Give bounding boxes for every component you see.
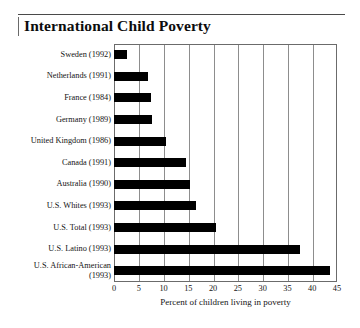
x-tick-label: 10	[154, 284, 174, 293]
bar-row	[114, 260, 337, 282]
bar	[114, 93, 151, 102]
bar	[114, 201, 196, 210]
category-label: Netherlands (1991)	[2, 71, 114, 80]
category-label: U.S. Latino (1993)	[2, 244, 114, 253]
chart-figure: International Child Poverty Percent of c…	[0, 0, 360, 328]
bar	[114, 137, 166, 146]
title-divider	[18, 14, 345, 15]
category-label: Germany (1989)	[2, 115, 114, 124]
bar	[114, 115, 152, 124]
bar-row	[114, 109, 337, 131]
category-label: U.S. Whites (1993)	[2, 201, 114, 210]
category-label: Canada (1991)	[2, 158, 114, 167]
category-label: U.S. Total (1993)	[2, 223, 114, 232]
bar-row	[114, 217, 337, 239]
bar	[114, 223, 216, 232]
category-label: U.S. African-American (1993)	[2, 261, 114, 280]
x-tick-label: 30	[253, 284, 273, 293]
bar	[114, 50, 127, 59]
category-label: United Kingdom (1986)	[2, 136, 114, 145]
x-tick-label: 15	[178, 284, 198, 293]
category-label: Sweden (1992)	[2, 50, 114, 59]
x-tick-label: 25	[228, 284, 248, 293]
bar-row	[114, 131, 337, 153]
category-label: Australia (1990)	[2, 179, 114, 188]
x-tick-label: 5	[129, 284, 149, 293]
category-label: France (1984)	[2, 93, 114, 102]
title-left-rule	[18, 17, 19, 36]
x-tick-label: 45	[327, 284, 347, 293]
bar	[114, 72, 148, 81]
bar-row	[114, 66, 337, 88]
bar-row	[114, 239, 337, 261]
bar-row	[114, 174, 337, 196]
bar	[114, 158, 186, 167]
bar	[114, 266, 330, 275]
x-tick-label: 40	[302, 284, 322, 293]
x-tick-label: 0	[104, 284, 124, 293]
bar	[114, 245, 300, 254]
bar-row	[114, 44, 337, 66]
bar-row	[114, 87, 337, 109]
x-axis-label: Percent of children living in poverty	[114, 297, 337, 307]
x-tick-label: 35	[277, 284, 297, 293]
bar-row	[114, 195, 337, 217]
bar	[114, 180, 190, 189]
page-title: International Child Poverty	[24, 16, 211, 36]
bar-row	[114, 152, 337, 174]
x-tick-label: 20	[203, 284, 223, 293]
